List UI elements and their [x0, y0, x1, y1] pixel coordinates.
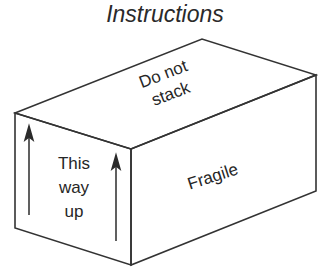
front-face-label: This way up	[44, 152, 104, 224]
front-label-line3: up	[44, 200, 104, 224]
box-drawing	[0, 0, 323, 276]
front-label-line2: way	[44, 176, 104, 200]
front-label-line1: This	[44, 152, 104, 176]
